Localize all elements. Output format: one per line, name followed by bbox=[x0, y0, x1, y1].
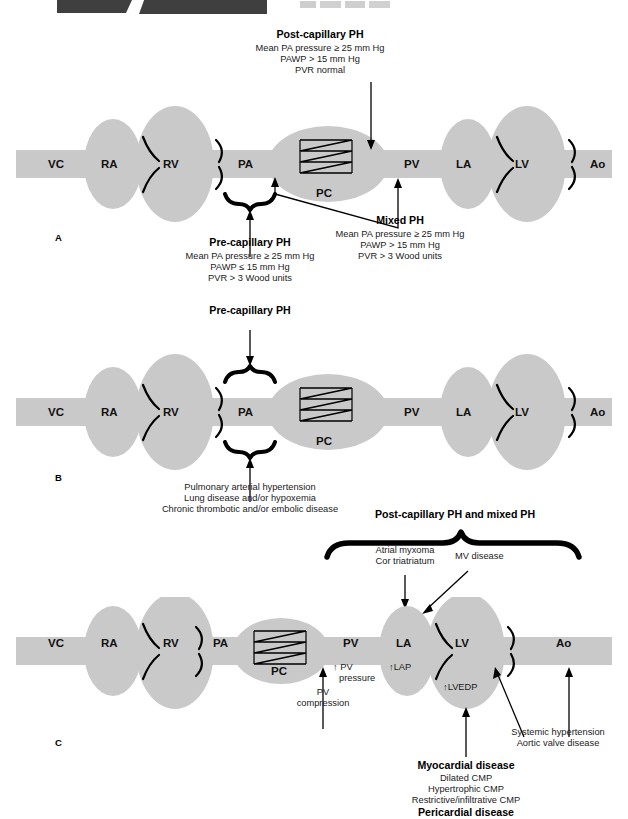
panel-a-mixed-line-2: PAWP > 15 mm Hg bbox=[305, 240, 495, 251]
panel-b-label-pv: PV bbox=[404, 406, 419, 418]
panel-a-label-pv: PV bbox=[404, 158, 419, 170]
panel-c: Post-capillary PH and mixed PH Atrial my… bbox=[0, 505, 628, 802]
panel-c-pv-pressure-line-1: ↑ PV bbox=[333, 662, 383, 673]
panel-c-label-vc: VC bbox=[48, 637, 64, 649]
panel-c-atrial-line-2: Cor triatriatum bbox=[340, 556, 470, 567]
panel-a-mixed-title: Mixed PH bbox=[305, 214, 495, 227]
panel-b-label-lv: LV bbox=[515, 406, 529, 418]
panel-c-lap: ↑LAP bbox=[389, 662, 433, 673]
panel-a-label-lv: LV bbox=[515, 158, 529, 170]
panel-c-lvedp: ↑LVEDP bbox=[443, 682, 501, 693]
panel-c-myocardial-title: Myocardial disease bbox=[376, 759, 556, 772]
page-scrap-bar-left bbox=[57, 0, 132, 13]
panel-c-label-la: LA bbox=[396, 637, 411, 649]
panel-b-heading: Pre-capillary PH bbox=[160, 304, 340, 317]
panel-a-label-vc: VC bbox=[48, 158, 64, 170]
panel-a-pre-capillary-line-3: PVR > 3 Wood units bbox=[150, 273, 350, 284]
panel-c-pv-compression-line-2: compression bbox=[281, 698, 365, 709]
panel-a-post-capillary-line-3: PVR normal bbox=[220, 65, 420, 76]
panel-b-cause-2: Lung disease and/or hypoxemia bbox=[140, 493, 360, 504]
page-scrap-bar-right bbox=[139, 0, 267, 14]
panel-a-pre-capillary-line-2: PAWP ≤ 15 mm Hg bbox=[150, 262, 350, 273]
panel-a-label-pc: PC bbox=[316, 187, 332, 199]
panel-b-cause-1: Pulmonary arterial hypertension bbox=[140, 482, 360, 493]
panel-c-label-rv: RV bbox=[163, 637, 179, 649]
panel-a-mixed-line-3: PVR > 3 Wood units bbox=[305, 251, 495, 262]
panel-c-label-ra: RA bbox=[101, 637, 118, 649]
panel-c-label-pv: PV bbox=[343, 637, 358, 649]
panel-b-label-vc: VC bbox=[48, 406, 64, 418]
panel-c-myocardial-line-2: Hypertrophic CMP bbox=[376, 784, 556, 795]
page-scrap-text bbox=[300, 1, 390, 8]
panel-c-letter: C bbox=[55, 737, 62, 748]
panel-b-label-rv: RV bbox=[163, 406, 179, 418]
panel-a-label-pa: PA bbox=[238, 158, 253, 170]
panel-c-pv-pressure-line-2: pressure bbox=[339, 673, 394, 684]
panel-b-label-pc: PC bbox=[316, 435, 332, 447]
panel-a-label-ao: Ao bbox=[590, 158, 605, 170]
panel-c-label-pc: PC bbox=[271, 665, 287, 677]
panel-c-mv-disease: MV disease bbox=[455, 551, 535, 562]
panel-c-label-lv: LV bbox=[455, 637, 469, 649]
panel-b-label-ao: Ao bbox=[590, 406, 605, 418]
panel-a-label-ra: RA bbox=[101, 158, 118, 170]
panel-a-letter: A bbox=[55, 232, 62, 243]
panel-a: Post-capillary PH Mean PA pressure ≥ 25 … bbox=[0, 20, 628, 290]
panel-c-atrial-line-1: Atrial myxoma bbox=[340, 545, 470, 556]
panel-b-label-ra: RA bbox=[101, 406, 118, 418]
panel-b-label-la: LA bbox=[456, 406, 471, 418]
panel-c-myocardial-line-1: Dilated CMP bbox=[376, 773, 556, 784]
panel-c-heading: Post-capillary PH and mixed PH bbox=[330, 508, 580, 521]
panel-a-mixed-line-1: Mean PA pressure ≥ 25 mm Hg bbox=[305, 229, 495, 240]
panel-c-systemic-line-1: Systemic hypertension bbox=[488, 727, 628, 738]
panel-c-label-pa: PA bbox=[213, 637, 228, 649]
panel-b-label-pa: PA bbox=[238, 406, 253, 418]
panel-b: Pre-capillary PH bbox=[0, 292, 628, 507]
panel-a-post-capillary-line-2: PAWP > 15 mm Hg bbox=[220, 54, 420, 65]
panel-c-myocardial-line-3: Restrictive/infiltrative CMP bbox=[376, 795, 556, 806]
panel-a-post-capillary-title: Post-capillary PH bbox=[220, 28, 420, 41]
panel-a-label-rv: RV bbox=[163, 158, 179, 170]
panel-a-label-la: LA bbox=[456, 158, 471, 170]
panel-c-pericardial: Pericardial disease bbox=[376, 806, 556, 819]
panel-c-pv-compression-line-1: PV bbox=[295, 687, 351, 698]
panel-a-post-capillary-line-1: Mean PA pressure ≥ 25 mm Hg bbox=[220, 43, 420, 54]
panel-c-label-ao: Ao bbox=[556, 637, 571, 649]
panel-b-letter: B bbox=[55, 472, 62, 483]
panel-c-systemic-line-2: Aortic valve disease bbox=[488, 738, 628, 749]
